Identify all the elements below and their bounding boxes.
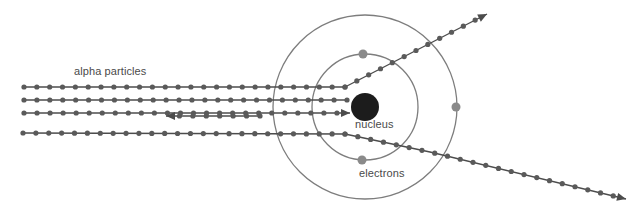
backscattered-beam-incoming-dot — [113, 110, 118, 115]
beam-bottom-incoming-dot — [20, 130, 25, 135]
undeflected-beam-top-dot — [111, 84, 116, 89]
particle-tracks-group — [20, 14, 626, 201]
backscattered-beam-return-dot — [231, 113, 236, 118]
backscattered-beam-incoming-dot — [61, 110, 66, 115]
beam-bottom-incoming-dot — [59, 131, 64, 136]
deflected-beam-lower-right-arrowhead — [616, 193, 626, 201]
backscattered-beam-incoming-dot — [269, 110, 274, 115]
undeflected-beam-top-dot — [47, 84, 52, 89]
deflected-beam-lower-right-dot — [381, 140, 386, 145]
undeflected-beam-second-dot — [319, 97, 324, 102]
undeflected-beam-top-dot — [60, 84, 65, 89]
undeflected-beam-second-dot — [47, 97, 52, 102]
undeflected-beam-second-dot — [73, 97, 78, 102]
beam-bottom-incoming-dot — [98, 131, 103, 136]
beam-bottom-incoming-dot — [72, 131, 77, 136]
deflected-beam-lower-right-dot — [496, 166, 501, 171]
undeflected-beam-top-dot — [330, 84, 335, 89]
undeflected-beam-top-dot — [98, 84, 103, 89]
undeflected-beam-second-dot — [228, 97, 233, 102]
deflected-beam-lower-right-dot — [407, 145, 412, 150]
beam-bottom-incoming-dot — [85, 131, 90, 136]
deflected-beam-lower-right-dot — [394, 142, 399, 147]
beam-bottom-incoming-dot — [33, 130, 38, 135]
deflected-beam-upper-right-dot — [461, 24, 466, 29]
deflected-beam-lower-right-dot — [509, 169, 514, 174]
beam-bottom-incoming-dot — [214, 131, 219, 136]
deflected-beam-lower-right-dot — [585, 187, 590, 192]
deflected-beam-lower-right-dot — [342, 131, 347, 136]
undeflected-beam-top-dot — [73, 84, 78, 89]
deflected-beam-upper-right-dot — [425, 42, 430, 47]
deflected-beam-upper-right-dot — [390, 60, 395, 65]
undeflected-beam-top-dot — [21, 84, 26, 89]
undeflected-beam-second-dot — [189, 97, 194, 102]
undeflected-beam-top-dot — [150, 84, 155, 89]
deflected-beam-lower-right-dot — [470, 160, 475, 165]
undeflected-beam-second-dot — [34, 97, 39, 102]
backscattered-beam-incoming-dot — [308, 110, 313, 115]
undeflected-beam-top-dot — [188, 84, 193, 89]
deflected-beam-lower-right-dot — [432, 151, 437, 156]
undeflected-beam-second-dot — [164, 97, 169, 102]
backscattered-beam-incoming-dot — [47, 110, 52, 115]
deflected-beam-lower-right-dot — [355, 134, 360, 139]
undeflected-beam-second-dot — [138, 97, 143, 102]
undeflected-beam-second-dot — [99, 97, 104, 102]
undeflected-beam-top-dot — [253, 84, 258, 89]
backscattered-beam-return-dot — [244, 113, 249, 118]
beam-bottom-incoming-dot — [175, 131, 180, 136]
deflected-beam-upper-right-dot — [366, 72, 371, 77]
electron-inner-bottom — [358, 156, 367, 165]
deflected-beam-upper-right-dot — [342, 84, 347, 89]
undeflected-beam-second-dot — [267, 97, 272, 102]
deflected-beam-lower-right-dot — [458, 157, 463, 162]
beam-bottom-incoming-dot — [330, 131, 335, 136]
backscattered-beam-incoming-dot — [126, 110, 131, 115]
backscattered-beam-incoming-arrowhead — [341, 109, 350, 117]
undeflected-beam-second-dot — [344, 97, 349, 102]
deflected-beam-lower-right-dot — [521, 172, 526, 177]
beam-bottom-incoming-dot — [226, 131, 231, 136]
deflected-beam-upper-right-dot — [437, 36, 442, 41]
undeflected-beam-second-dot — [125, 97, 130, 102]
beam-bottom-incoming-dot — [265, 131, 270, 136]
beam-bottom-incoming-dot — [123, 131, 128, 136]
backscattered-beam-incoming-dot — [321, 110, 326, 115]
nucleus-blob — [351, 93, 379, 121]
deflected-beam-lower-right-dot — [560, 181, 565, 186]
deflected-beam-upper-right-dot — [378, 66, 383, 71]
undeflected-beam-second-dot — [112, 97, 117, 102]
undeflected-beam-top — [21, 84, 347, 89]
alpha-particles-label: alpha particles — [74, 65, 146, 77]
beam-bottom-incoming-dot — [304, 131, 309, 136]
beam-bottom-incoming — [20, 130, 347, 136]
beam-bottom-incoming-dot — [162, 131, 167, 136]
undeflected-beam-second-dot — [86, 97, 91, 102]
scattering-diagram-canvas — [0, 0, 629, 214]
deflected-beam-upper-right-dot — [413, 48, 418, 53]
deflected-beam-lower-right-dot — [419, 148, 424, 153]
deflected-beam-lower-right-dot — [483, 163, 488, 168]
undeflected-beam-second-dot — [331, 97, 336, 102]
beam-bottom-incoming-dot — [111, 131, 116, 136]
deflected-beam-upper-right-dot — [473, 17, 478, 22]
rutherford-scattering-figure: alpha particles nucleus electrons — [0, 0, 629, 214]
backscattered-beam-incoming-dot — [139, 110, 144, 115]
undeflected-beam-second-dot — [151, 97, 156, 102]
beam-bottom-incoming-line — [23, 133, 345, 134]
undeflected-beam-second-dot — [215, 97, 220, 102]
undeflected-beam-second-dot — [254, 97, 259, 102]
beam-bottom-incoming-dot — [201, 131, 206, 136]
undeflected-beam-second-dot — [176, 97, 181, 102]
backscattered-beam-return-dot — [204, 113, 209, 118]
beam-bottom-incoming-dot — [239, 131, 244, 136]
backscattered-beam-incoming-dot — [282, 110, 287, 115]
beam-bottom-incoming-dot — [317, 131, 322, 136]
undeflected-beam-top-dot — [34, 84, 39, 89]
backscattered-beam-return-dot — [217, 113, 222, 118]
beam-bottom-incoming-dot — [291, 131, 296, 136]
backscattered-beam-incoming-dot — [34, 110, 39, 115]
undeflected-beam-second-dot — [306, 97, 311, 102]
beam-bottom-incoming-dot — [136, 131, 141, 136]
